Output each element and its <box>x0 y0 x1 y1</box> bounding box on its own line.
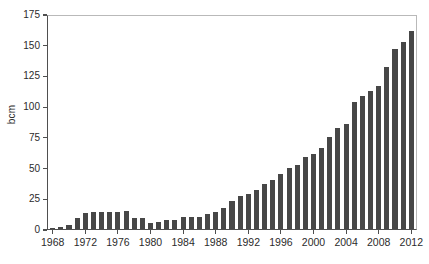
bar <box>409 31 414 229</box>
x-tick-label: 1968 <box>41 237 64 248</box>
y-tick-mark <box>43 45 47 46</box>
bar <box>238 196 243 229</box>
bar <box>50 228 55 229</box>
bar <box>99 212 104 229</box>
bar <box>172 220 177 229</box>
x-tick-label: 1996 <box>269 237 292 248</box>
x-tick-label: 2000 <box>302 237 325 248</box>
bar <box>352 102 357 229</box>
y-axis-label: bcm <box>4 0 20 229</box>
bar-chart: bcm 0255075100125150175 1968197219761980… <box>0 0 429 264</box>
bar <box>311 154 316 229</box>
x-tick-mark <box>248 230 249 234</box>
bar <box>189 217 194 229</box>
x-tick-mark <box>280 230 281 234</box>
bar <box>360 96 365 229</box>
bar <box>303 157 308 229</box>
bar <box>58 227 63 229</box>
bar <box>221 208 226 229</box>
bar <box>401 42 406 229</box>
y-tick-mark <box>43 137 47 138</box>
bar <box>262 184 267 229</box>
bar <box>91 212 96 229</box>
x-tick-label: 2008 <box>367 237 390 248</box>
bar <box>295 165 300 229</box>
bar <box>107 212 112 229</box>
bar <box>376 86 381 229</box>
bar <box>115 212 120 229</box>
y-tick-label: 125 <box>23 71 43 81</box>
bar <box>140 218 145 229</box>
x-tick-mark <box>411 230 412 234</box>
x-tick-label: 1980 <box>139 237 162 248</box>
bar <box>156 222 161 229</box>
bar <box>368 91 373 229</box>
bar <box>164 220 169 229</box>
x-tick-label: 1992 <box>237 237 260 248</box>
x-tick-mark <box>52 230 53 234</box>
x-tick-label: 1972 <box>74 237 97 248</box>
x-tick-mark <box>215 230 216 234</box>
y-tick-mark <box>43 199 47 200</box>
bar <box>229 201 234 229</box>
x-tick-label: 1988 <box>204 237 227 248</box>
bar <box>205 214 210 229</box>
bar <box>287 168 292 229</box>
y-tick-label: 0 <box>34 225 43 235</box>
y-tick-label: 100 <box>23 102 43 112</box>
bar <box>270 180 275 229</box>
x-tick-mark <box>150 230 151 234</box>
y-tick-mark <box>43 14 47 15</box>
bar <box>327 137 332 229</box>
y-tick-mark <box>43 107 47 108</box>
x-tick-label: 1976 <box>106 237 129 248</box>
x-tick-mark <box>117 230 118 234</box>
x-tick-mark <box>378 230 379 234</box>
y-tick-label: 25 <box>29 194 43 204</box>
bar <box>124 211 129 229</box>
y-tick-label: 150 <box>23 40 43 50</box>
bar <box>344 124 349 229</box>
bar <box>278 174 283 229</box>
x-tick-mark <box>313 230 314 234</box>
x-tick-label: 2012 <box>400 237 423 248</box>
bars-container <box>48 15 417 229</box>
x-tick-mark <box>346 230 347 234</box>
bar <box>213 212 218 229</box>
y-tick-label: 50 <box>29 163 43 173</box>
x-tick-mark <box>85 230 86 234</box>
bar <box>392 49 397 229</box>
y-axis-label-text: bcm <box>7 105 18 125</box>
bar <box>197 217 202 229</box>
bar <box>181 217 186 229</box>
bar <box>66 225 71 229</box>
y-tick-label: 75 <box>29 132 43 142</box>
x-tick-label: 2004 <box>334 237 357 248</box>
x-tick-label: 1984 <box>171 237 194 248</box>
bar <box>335 128 340 229</box>
bar <box>148 223 153 229</box>
bar <box>319 148 324 229</box>
x-tick-mark <box>183 230 184 234</box>
bar <box>132 218 137 229</box>
y-tick-mark <box>43 229 47 230</box>
bar <box>254 190 259 229</box>
bar <box>384 67 389 229</box>
y-tick-mark <box>43 168 47 169</box>
y-tick-label: 175 <box>23 10 43 20</box>
bar <box>75 218 80 229</box>
bar <box>83 213 88 229</box>
bar <box>246 194 251 229</box>
y-tick-mark <box>43 76 47 77</box>
